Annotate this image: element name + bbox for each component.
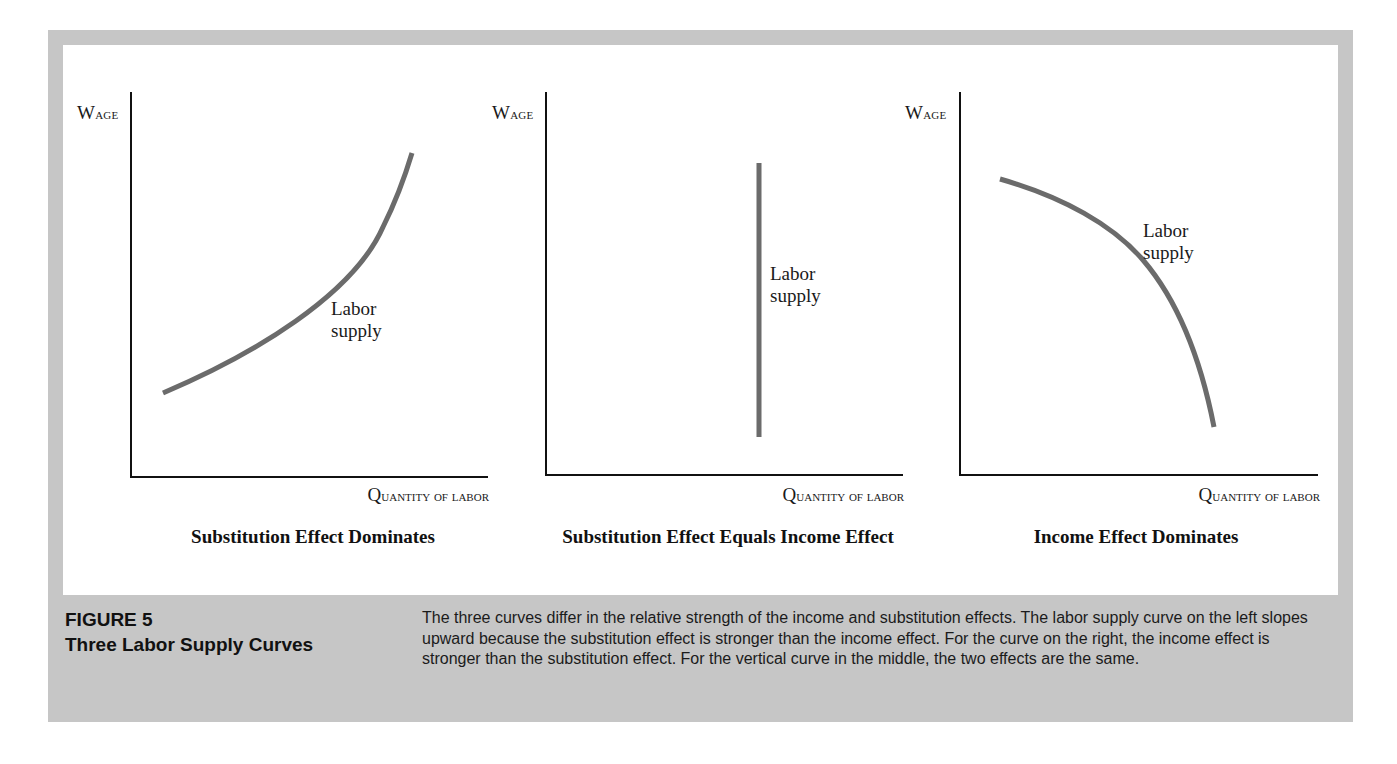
figure-title: Three Labor Supply Curves bbox=[65, 632, 313, 657]
figure-frame: Wage Laborsupply Quantity of labor Subst… bbox=[48, 30, 1353, 722]
figure-number: FIGURE 5 bbox=[65, 607, 313, 632]
middle-y-axis-label: Wage bbox=[492, 102, 533, 124]
middle-curve-label: Laborsupply bbox=[770, 263, 821, 307]
plots-canvas bbox=[63, 45, 1338, 595]
right-curve-label: Laborsupply bbox=[1143, 220, 1194, 264]
middle-chart-subtitle: Substitution Effect Equals Income Effect bbox=[533, 526, 923, 548]
left-x-axis-label: Quantity of labor bbox=[368, 484, 489, 506]
figure-panel: Wage Laborsupply Quantity of labor Subst… bbox=[63, 45, 1338, 595]
figure-caption-text: The three curves differ in the relative … bbox=[422, 608, 1322, 670]
left-supply-curve bbox=[163, 153, 412, 393]
middle-x-axis-label: Quantity of labor bbox=[783, 484, 904, 506]
right-supply-curve bbox=[1000, 179, 1214, 427]
right-chart-axes bbox=[959, 92, 1318, 476]
left-chart-subtitle: Substitution Effect Dominates bbox=[171, 526, 455, 548]
right-chart-subtitle: Income Effect Dominates bbox=[1011, 526, 1261, 548]
left-y-axis-label: Wage bbox=[77, 102, 118, 124]
left-curve-label: Laborsupply bbox=[331, 298, 382, 342]
right-y-axis-label: Wage bbox=[905, 102, 946, 124]
right-x-axis-label: Quantity of labor bbox=[1199, 484, 1320, 506]
left-chart-axes bbox=[130, 92, 488, 478]
figure-caption-title: FIGURE 5 Three Labor Supply Curves bbox=[65, 607, 313, 657]
middle-chart-axes bbox=[545, 92, 903, 476]
